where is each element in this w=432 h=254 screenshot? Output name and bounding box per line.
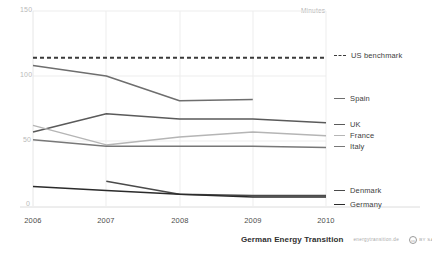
legend-swatch-icon: [334, 190, 345, 191]
legend-item-spain[interactable]: Spain: [334, 94, 370, 103]
chart-container: Minutes 150 100 50 0 2006 2007 2008 2009…: [0, 0, 432, 254]
series-line-spain: [33, 66, 253, 101]
vertical-gridlines: [33, 11, 326, 206]
legend-label: Spain: [350, 94, 370, 103]
cc-license-tail: BY SA: [419, 237, 432, 242]
x-axis-tick-2006: 2006: [19, 216, 47, 225]
legend-swatch-icon: [334, 98, 345, 99]
legend-label: Italy: [350, 142, 365, 151]
cc-logo-icon: cc: [409, 236, 417, 244]
plot-area: [0, 0, 432, 254]
legend-swatch-icon: [334, 124, 345, 125]
legend-swatch-icon: [334, 55, 346, 56]
legend-label: UK: [350, 120, 361, 129]
legend-label: Germany: [350, 200, 382, 209]
legend-swatch-icon: [334, 204, 345, 205]
legend-item-germany[interactable]: Germany: [334, 200, 382, 209]
legend-item-us-benchmark[interactable]: US benchmark: [334, 51, 402, 60]
creative-commons-badge: cc BY SA: [409, 236, 432, 244]
footer-brand: German Energy Transition: [241, 235, 343, 244]
legend-label: Denmark: [350, 186, 381, 195]
legend-swatch-icon: [334, 135, 345, 136]
legend-item-uk[interactable]: UK: [334, 120, 361, 129]
legend-item-france[interactable]: France: [334, 131, 374, 140]
x-axis-tick-2008: 2008: [166, 216, 194, 225]
legend-item-italy[interactable]: Italy: [334, 142, 365, 151]
legend-label: US benchmark: [351, 51, 402, 60]
x-axis-tick-2009: 2009: [239, 216, 267, 225]
footer-url[interactable]: energytransition.de: [353, 237, 399, 242]
legend-item-denmark[interactable]: Denmark: [334, 186, 381, 195]
footer: German Energy Transition energytransitio…: [241, 235, 432, 244]
series-line-denmark: [106, 181, 326, 195]
legend-swatch-icon: [334, 146, 345, 147]
legend-label: France: [350, 131, 374, 140]
x-axis-tick-2010: 2010: [312, 216, 340, 225]
x-axis-tick-2007: 2007: [92, 216, 120, 225]
